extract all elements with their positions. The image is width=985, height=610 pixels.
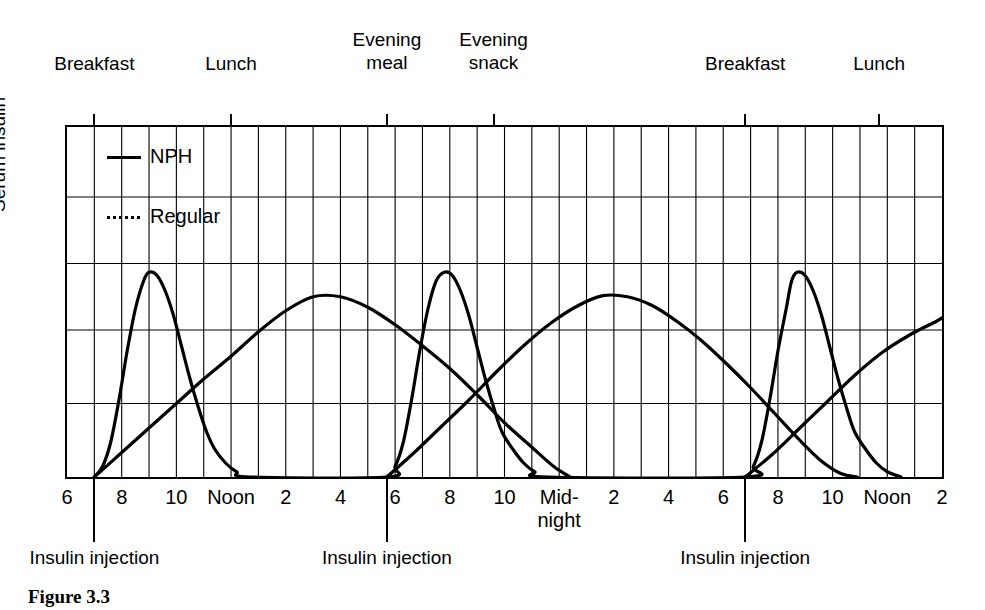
meal-label: Lunch [789, 52, 969, 75]
legend-label-nph: NPH [150, 145, 192, 168]
injection-tick-line [744, 477, 746, 542]
legend-label-regular: Regular [150, 205, 220, 228]
y-axis-title: Serum insulin [0, 12, 10, 212]
injection-label: Insulin injection [615, 547, 875, 569]
plot-area: NPH Regular [65, 125, 944, 479]
meal-tick-line [386, 114, 388, 125]
meal-label: Evening snack [404, 28, 584, 74]
meal-label: Lunch [141, 52, 321, 75]
meal-tick-line [744, 114, 746, 125]
legend-item-regular: Regular [107, 205, 220, 228]
meal-tick-line [93, 114, 95, 125]
meal-tick-line [230, 114, 232, 125]
injection-tick-line [386, 477, 388, 542]
insulin-serum-chart-figure: BreakfastLunchEvening mealEvening snackB… [0, 0, 985, 610]
legend-item-nph: NPH [107, 145, 192, 168]
meal-tick-line [878, 114, 880, 125]
injection-label: Insulin injection [257, 547, 517, 569]
x-axis-tick-label: 2 [892, 486, 985, 509]
dashed-line-icon [107, 210, 141, 224]
meal-tick-line [493, 114, 495, 125]
injection-label: Insulin injection [0, 547, 224, 569]
insulin-curves [67, 127, 942, 477]
injection-tick-line [93, 477, 95, 542]
solid-line-icon [107, 150, 141, 164]
figure-caption: Figure 3.3 [28, 586, 110, 610]
